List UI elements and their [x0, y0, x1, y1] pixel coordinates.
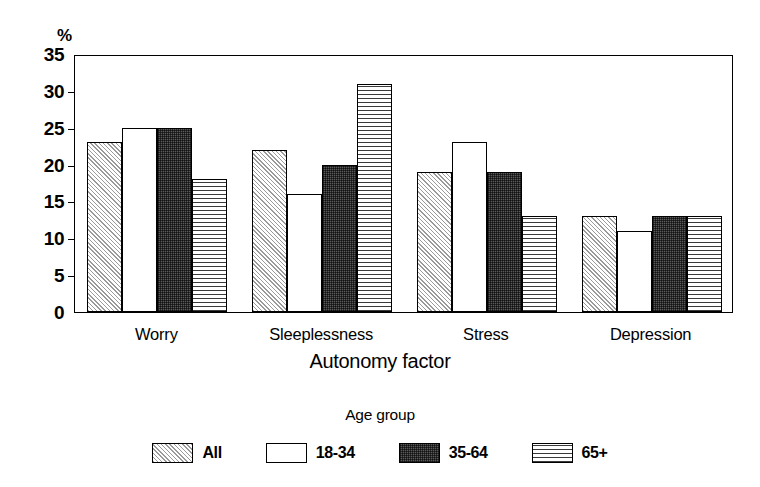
legend-swatch [532, 443, 573, 463]
y-axis-tick-label: 25 [30, 119, 64, 138]
bar [192, 179, 227, 312]
legend-item-label: 18-34 [316, 445, 355, 461]
legend-item: 35-64 [399, 443, 488, 463]
legend-swatch [266, 443, 307, 463]
legend-item: 65+ [532, 443, 608, 463]
bar [252, 150, 287, 312]
x-axis-title: Autonomy factor [0, 350, 760, 373]
bars-layer [75, 56, 732, 312]
bar [617, 231, 652, 312]
legend-item: All [152, 443, 221, 463]
bar [582, 216, 617, 312]
x-axis-tick-label: Depression [561, 325, 741, 344]
y-axis-tick-label: 20 [30, 156, 64, 175]
bar [487, 172, 522, 312]
bar [687, 216, 722, 312]
bar [357, 84, 392, 313]
legend-title: Age group [0, 406, 760, 424]
legend-item-label: 65+ [582, 445, 608, 461]
bar [452, 142, 487, 312]
legend-item: 18-34 [266, 443, 355, 463]
bar [122, 128, 157, 312]
legend-item-label: 35-64 [449, 445, 488, 461]
bar [522, 216, 557, 312]
plot-area [74, 55, 733, 313]
bar [157, 128, 192, 312]
y-axis-tick-label: 35 [30, 45, 64, 64]
y-axis-tick-label: 30 [30, 82, 64, 101]
bar [417, 172, 452, 312]
y-axis-tick-label: 5 [30, 266, 64, 285]
bar [287, 194, 322, 312]
legend-swatch [399, 443, 440, 463]
y-axis-tick-label: 15 [30, 192, 64, 211]
legend: All18-3435-6465+ [0, 443, 760, 463]
bar [322, 165, 357, 312]
x-axis-tick-label: Stress [396, 325, 576, 344]
y-axis-unit-label: % [57, 26, 72, 46]
legend-swatch [152, 443, 193, 463]
bar [87, 142, 122, 312]
y-axis-tick-label: 0 [30, 303, 64, 322]
bar [652, 216, 687, 312]
bar-chart-figure: % 05101520253035 WorrySleeplessnessStres… [0, 0, 760, 487]
y-axis-tick-label: 10 [30, 229, 64, 248]
x-axis-tick-label: Sleeplessness [231, 325, 411, 344]
x-axis-tick-label: Worry [66, 325, 246, 344]
legend-item-label: All [202, 445, 221, 461]
